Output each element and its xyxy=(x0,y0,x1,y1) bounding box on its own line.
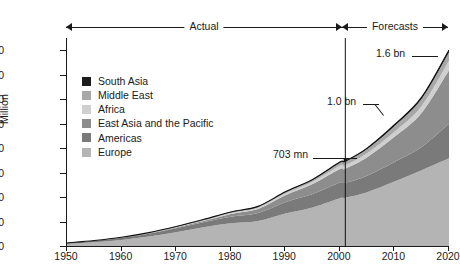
bracket-actual: Actual xyxy=(66,18,342,38)
legend-swatch-icon xyxy=(82,133,91,142)
x-axis-tick-label: 2000 xyxy=(327,250,350,262)
legend-swatch-icon xyxy=(82,148,91,157)
callout-16bn-leader xyxy=(412,56,438,57)
callout-1bn: 1.0 bn xyxy=(327,95,356,107)
legend-label: Europe xyxy=(98,147,132,158)
legend-item: Middle East xyxy=(82,88,214,102)
arrow-left-icon xyxy=(342,23,348,31)
legend-label: Africa xyxy=(98,104,125,115)
legend-swatch-icon xyxy=(82,105,91,114)
legend: South AsiaMiddle EastAfricaEast Asia and… xyxy=(82,74,214,159)
x-axis-tick-label: 1970 xyxy=(163,250,186,262)
x-axis-tick-label: 1960 xyxy=(109,250,132,262)
legend-item: Europe xyxy=(82,145,214,159)
y-axis-tick-label: 400 xyxy=(0,191,4,203)
legend-swatch-icon xyxy=(82,119,91,128)
y-axis-tick-label: 600 xyxy=(0,167,4,179)
forecasts-label: Forecasts xyxy=(367,20,423,32)
legend-label: South Asia xyxy=(98,76,148,87)
legend-item: East Asia and the Pacific xyxy=(82,117,214,131)
x-axis-tick-label: 1990 xyxy=(273,250,296,262)
actual-label: Actual xyxy=(184,20,223,32)
x-axis-tick-label: 2020 xyxy=(436,250,459,262)
y-axis-tick-label: 1,000 xyxy=(0,118,4,130)
y-axis-tick-label: 1,400 xyxy=(0,69,4,81)
x-axis-tick-label: 1950 xyxy=(54,250,77,262)
chart-figure: Actual Forecasts Million 02004006008001,… xyxy=(0,0,460,279)
x-axis-tick-label: 2010 xyxy=(382,250,405,262)
callout-703mn: 703 mn xyxy=(273,148,308,160)
y-axis-tick-label: 200 xyxy=(0,216,4,228)
legend-label: Americas xyxy=(98,133,142,144)
legend-item: Americas xyxy=(82,131,214,145)
callout-16bn: 1.6 bn xyxy=(376,47,405,59)
y-axis-tick-label: 1,600 xyxy=(0,44,4,56)
x-axis-tick-label: 1980 xyxy=(218,250,241,262)
legend-label: Middle East xyxy=(98,90,153,101)
bracket-forecasts: Forecasts xyxy=(342,18,448,38)
legend-swatch-icon xyxy=(82,77,91,86)
arrow-right-icon xyxy=(442,23,448,31)
y-axis-tick-label: 800 xyxy=(0,142,4,154)
y-axis-tick-label: 1,200 xyxy=(0,93,4,105)
arrow-left-icon xyxy=(66,23,72,31)
legend-swatch-icon xyxy=(82,91,91,100)
legend-item: Africa xyxy=(82,102,214,116)
callout-703mn-leader xyxy=(313,158,357,159)
y-axis-tick-label: 0 xyxy=(0,240,4,252)
legend-label: East Asia and the Pacific xyxy=(98,118,214,129)
legend-item: South Asia xyxy=(82,74,214,88)
